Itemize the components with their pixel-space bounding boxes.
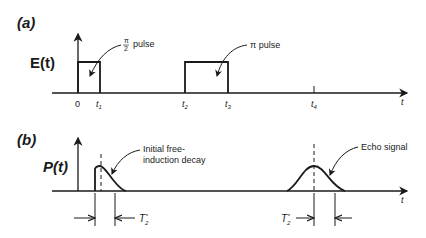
panel-b: (b) P(t) t Initial free- induction decay… <box>17 131 408 226</box>
pi-pulse <box>185 62 228 93</box>
panel-a-label: (a) <box>17 14 35 31</box>
half-pi-pulse-label: pulse <box>133 39 155 49</box>
spin-echo-diagram: (a) E(t) 0 t1 t2 t3 t4 t π 2 pulse π pul… <box>0 0 426 238</box>
t2star-right-label: T2* <box>281 213 291 226</box>
tick-t3: t3 <box>225 99 232 110</box>
x-axis-b-label: t <box>401 195 404 205</box>
echo-arrow <box>330 147 358 175</box>
half-pi-pulse <box>78 62 100 93</box>
panel-b-label: (b) <box>17 131 36 148</box>
panel-a: (a) E(t) 0 t1 t2 t3 t4 t π 2 pulse π pul… <box>17 14 407 110</box>
fid-arrow <box>112 150 140 174</box>
echo-signal-curve <box>287 166 345 191</box>
t2star-left-label: T2* <box>139 213 149 226</box>
fid-label-line2: induction decay <box>143 155 206 165</box>
half-pi-numerator: π <box>124 37 129 44</box>
free-induction-decay-curve <box>95 166 126 191</box>
panel-a-ylabel: E(t) <box>30 54 55 71</box>
half-pi-denominator: 2 <box>124 45 128 52</box>
tick-t4: t4 <box>311 99 318 110</box>
tick-t1: t1 <box>96 99 102 110</box>
tick-0: 0 <box>75 99 80 109</box>
half-pi-arrow <box>90 45 121 76</box>
pi-pulse-label: π pulse <box>250 40 280 50</box>
x-axis-a-label: t <box>401 97 404 107</box>
panel-b-ylabel: P(t) <box>43 158 68 175</box>
fid-label-line1: Initial free- <box>143 144 185 154</box>
echo-label: Echo signal <box>361 142 408 152</box>
pi-pulse-arrow <box>217 45 247 76</box>
tick-t2: t2 <box>182 99 189 110</box>
